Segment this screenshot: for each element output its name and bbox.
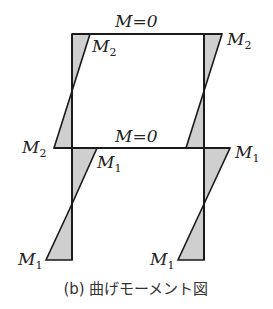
bending-moment-diagram: M=0 M=0 M2 M2 M2 M1 M1 M1 M1 (b) 曲げモーメント… [0,0,273,309]
moment-area-bottom-right-lower [178,204,204,260]
label-top-beam-moment: M=0 [114,11,158,31]
moment-area-top-right-lower [186,91,204,148]
label-top-left-m2: M2 [91,36,116,59]
label-top-right-m2: M2 [226,29,251,52]
moment-area-bottom-right-upper [204,148,230,204]
moment-area-top-left-upper [72,34,90,91]
label-mid-beam-moment: M=0 [114,126,158,146]
label-mid-right-m1: M1 [234,142,259,165]
figure-caption: (b) 曲げモーメント図 [64,280,209,298]
label-mid-left-m2: M2 [21,137,46,160]
moment-area-top-right-upper [204,34,222,91]
moment-area-bottom-left-upper [72,148,97,204]
moment-area-bottom-left-lower [46,204,72,260]
moment-area-top-left-lower [54,91,72,148]
frame [54,34,230,260]
label-mid-left-m1: M1 [96,152,121,175]
label-bottom-left-m1: M1 [17,249,42,272]
label-bottom-right-m1: M1 [149,249,174,272]
